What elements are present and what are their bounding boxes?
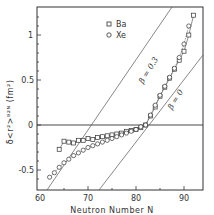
circle-marker-icon bbox=[107, 33, 111, 37]
beta-0-line bbox=[99, 55, 203, 190]
circle-marker-icon bbox=[148, 113, 152, 117]
circle-marker-icon bbox=[96, 142, 100, 146]
square-marker-icon bbox=[187, 33, 191, 37]
circle-marker-icon bbox=[62, 161, 66, 165]
circle-marker-icon bbox=[172, 66, 176, 70]
circle-marker-icon bbox=[168, 75, 172, 79]
y-tick-label: 1 bbox=[28, 31, 33, 40]
square-marker-icon bbox=[107, 22, 111, 26]
circle-marker-icon bbox=[129, 129, 133, 133]
circle-marker-icon bbox=[57, 165, 61, 169]
circle-marker-icon bbox=[158, 93, 162, 97]
y-tick-label: -0.5 bbox=[18, 166, 34, 175]
square-marker-icon bbox=[72, 141, 76, 145]
circle-marker-icon bbox=[100, 140, 104, 144]
circle-marker-icon bbox=[115, 135, 119, 139]
y-axis-title: δ<r²>⁸²ᴺ (fm²) bbox=[6, 80, 15, 145]
square-marker-icon bbox=[91, 137, 95, 141]
y-axis-ticks bbox=[37, 17, 41, 179]
circle-marker-icon bbox=[153, 103, 157, 107]
square-marker-icon bbox=[86, 137, 90, 141]
x-axis-ticks bbox=[64, 186, 184, 190]
square-marker-icon bbox=[105, 134, 109, 138]
circle-marker-icon bbox=[124, 131, 128, 135]
square-marker-icon bbox=[192, 13, 196, 17]
circle-marker-icon bbox=[67, 157, 71, 161]
circle-marker-icon bbox=[72, 154, 76, 158]
x-tick-label: 60 bbox=[35, 194, 45, 203]
circle-marker-icon bbox=[52, 171, 56, 175]
circle-marker-icon bbox=[163, 84, 167, 88]
circle-marker-icon bbox=[134, 127, 138, 131]
y-tick-label: 0 bbox=[28, 121, 33, 130]
circle-marker-icon bbox=[86, 145, 90, 149]
legend-xe-label: Xe bbox=[116, 31, 126, 40]
circle-marker-icon bbox=[81, 148, 85, 152]
circle-marker-icon bbox=[76, 151, 80, 155]
square-marker-icon bbox=[57, 147, 61, 151]
x-tick-label: 70 bbox=[83, 194, 93, 203]
circle-marker-icon bbox=[177, 55, 181, 59]
circle-marker-icon bbox=[144, 123, 148, 127]
x-tick-label: 80 bbox=[131, 194, 141, 203]
circle-marker-icon bbox=[105, 138, 109, 142]
circle-marker-icon bbox=[139, 125, 143, 129]
series-ba bbox=[57, 13, 195, 151]
square-marker-icon bbox=[182, 49, 186, 53]
square-marker-icon bbox=[67, 140, 71, 144]
circle-marker-icon bbox=[48, 175, 52, 179]
y-tick-label: 0.5 bbox=[21, 76, 34, 85]
circle-marker-icon bbox=[120, 133, 124, 137]
square-marker-icon bbox=[81, 138, 85, 142]
square-marker-icon bbox=[62, 139, 66, 143]
beta-0.3-label: β = 0.3 bbox=[137, 56, 161, 86]
circle-marker-icon bbox=[91, 144, 95, 148]
square-marker-icon bbox=[100, 135, 104, 139]
chart-canvas: 1 0.5 0 -0.5 60 70 80 90 Neutron Number … bbox=[0, 0, 214, 215]
square-marker-icon bbox=[96, 136, 100, 140]
legend-ba-label: Ba bbox=[116, 20, 126, 29]
x-axis-title: Neutron Number N bbox=[70, 206, 153, 215]
legend: Ba Xe bbox=[107, 20, 127, 40]
circle-marker-icon bbox=[110, 136, 114, 140]
circle-marker-icon bbox=[182, 42, 186, 46]
square-marker-icon bbox=[76, 138, 80, 142]
x-tick-label: 90 bbox=[179, 194, 189, 203]
circle-marker-icon bbox=[187, 24, 191, 28]
